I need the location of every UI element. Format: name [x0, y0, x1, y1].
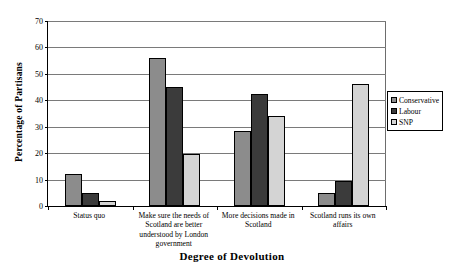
bar [234, 131, 251, 206]
x-axis-category-label: Scotland runs its own affairs [301, 211, 385, 230]
y-tick-label: 20 [35, 149, 43, 158]
y-tick-label: 10 [35, 175, 43, 184]
bar [99, 201, 116, 206]
bar [82, 193, 99, 206]
plot-area: 010203040506070 [47, 21, 386, 207]
x-tick-mark [133, 206, 134, 210]
legend-swatch-icon [391, 97, 397, 103]
plot-frame-right-border [385, 21, 386, 206]
y-tick-mark [45, 47, 48, 48]
x-axis-category-label: More decisions made in Scotland [212, 211, 304, 230]
x-axis-category-label: Status quo [47, 211, 131, 220]
x-axis-category-label: Make sure the needs of Scotland are bett… [128, 211, 220, 249]
bar [352, 84, 369, 206]
legend-item: SNP [391, 117, 439, 127]
y-tick-label: 70 [35, 17, 43, 26]
bar-group [149, 21, 200, 206]
bar-group [234, 21, 285, 206]
legend-swatch-icon [391, 108, 397, 114]
bar-group [318, 21, 369, 206]
bar [251, 94, 268, 206]
y-tick-mark [45, 74, 48, 75]
bar [183, 154, 200, 206]
y-tick-mark [45, 100, 48, 101]
legend-item: Conservative [391, 95, 439, 105]
x-tick-mark [217, 206, 218, 210]
x-tick-mark [302, 206, 303, 210]
y-tick-mark [45, 180, 48, 181]
x-axis-title: Degree of Devolution [0, 250, 464, 262]
x-tick-mark [386, 206, 387, 210]
bar [268, 116, 285, 206]
y-axis-title: Percentage of Partisans [14, 47, 24, 177]
y-tick-mark [45, 21, 48, 22]
bar [149, 58, 166, 206]
y-tick-label: 0 [39, 202, 43, 211]
bar-group [65, 21, 116, 206]
y-tick-label: 30 [35, 122, 43, 131]
y-tick-label: 60 [35, 43, 43, 52]
y-tick-label: 50 [35, 69, 43, 78]
bar [318, 193, 335, 206]
legend-swatch-icon [391, 119, 397, 125]
legend-item-label: Labour [399, 107, 421, 116]
y-tick-label: 40 [35, 96, 43, 105]
bar [335, 181, 352, 206]
legend-item: Labour [391, 106, 439, 116]
legend-item-label: SNP [399, 118, 413, 127]
bar [65, 174, 82, 206]
y-tick-mark [45, 153, 48, 154]
chart-legend: ConservativeLabourSNP [387, 91, 443, 131]
bar-chart: Percentage of Partisans 010203040506070 … [0, 0, 464, 269]
y-tick-mark [45, 127, 48, 128]
x-tick-mark [48, 206, 49, 210]
bar [166, 87, 183, 206]
legend-item-label: Conservative [399, 96, 439, 105]
